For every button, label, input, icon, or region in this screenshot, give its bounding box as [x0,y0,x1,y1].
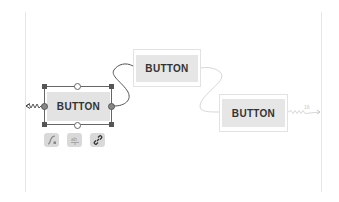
design-canvas[interactable]: BUTTON BUTTON 16 BUTTON ab [0,0,339,202]
button-2[interactable]: BUTTON [136,55,198,82]
left-anchor-handle[interactable] [41,103,48,110]
button-3-label: BUTTON [232,108,275,119]
clear-constraints-button[interactable] [44,133,59,147]
bottom-anchor-handle[interactable] [74,122,81,129]
button-3[interactable]: BUTTON [222,99,285,127]
clear-constraints-icon [47,135,57,145]
right-anchor-handle[interactable] [108,103,115,110]
chain-link-icon [93,135,103,145]
top-anchor-handle[interactable] [74,83,81,90]
resize-handle-bottom-right[interactable] [109,122,114,127]
resize-handle-top-right[interactable] [109,84,114,89]
baseline-button[interactable]: ab [67,133,82,147]
baseline-ab-icon: ab [70,135,80,146]
button-2-label: BUTTON [145,63,188,74]
selection-frame [44,86,112,125]
right-margin-label: 16 [304,104,310,110]
resize-handle-top-left[interactable] [42,84,47,89]
svg-text:ab: ab [71,136,77,142]
chain-button[interactable] [90,133,105,147]
resize-handle-bottom-left[interactable] [42,122,47,127]
